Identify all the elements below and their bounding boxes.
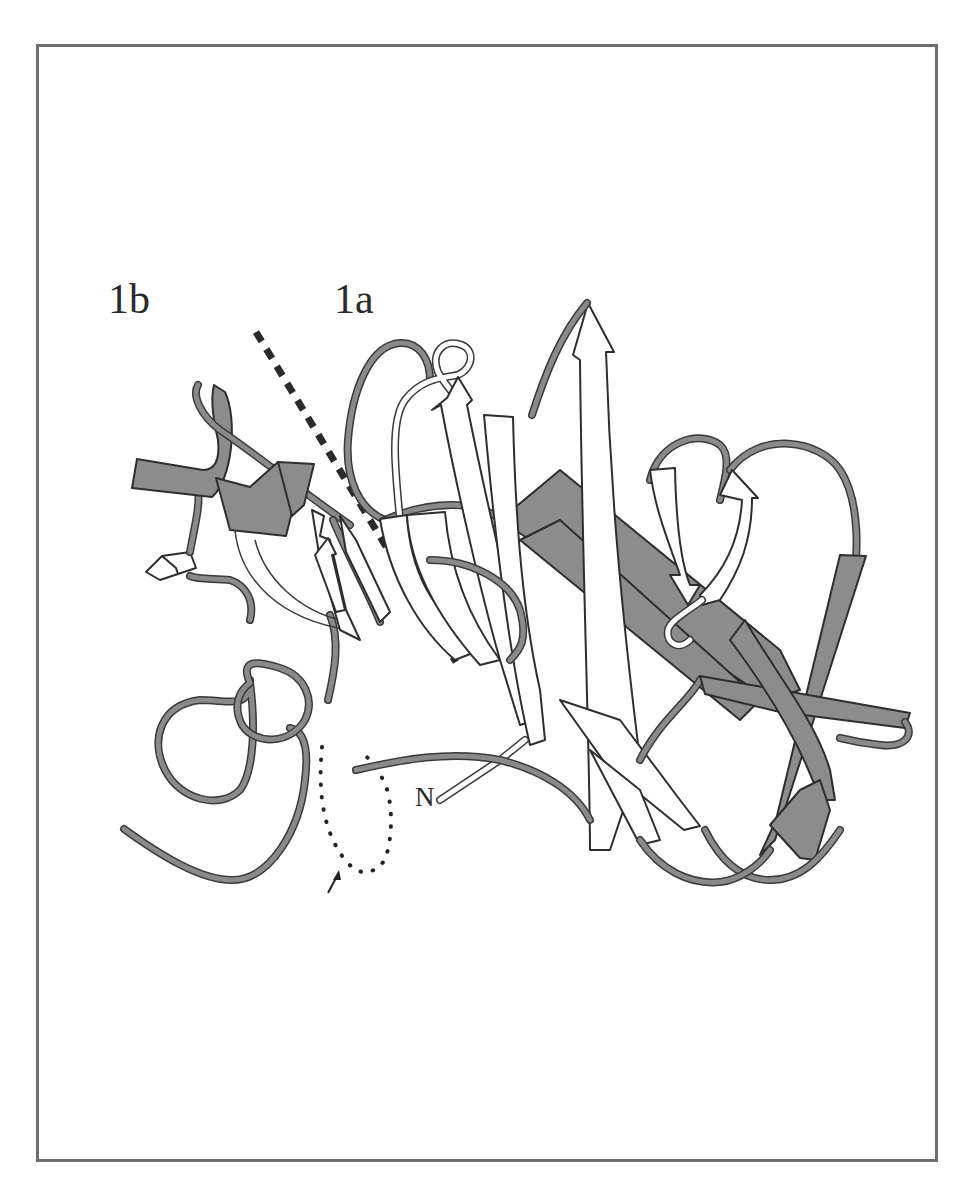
arrow-icon bbox=[328, 870, 341, 893]
domain-1a-label: 1a bbox=[334, 278, 374, 320]
figure-caption bbox=[36, 1176, 936, 1192]
protein-ribbon-diagram: .coil { fill: none; stroke: #3a3a3a; str… bbox=[0, 0, 969, 1192]
n-terminus-label: N bbox=[415, 784, 435, 811]
domain-1b-label: 1b bbox=[108, 278, 150, 320]
